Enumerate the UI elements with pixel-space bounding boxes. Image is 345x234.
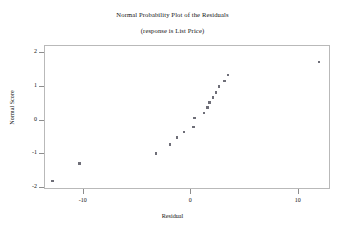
y-axis-tick-label: -2 <box>7 183 37 189</box>
data-point <box>212 96 214 98</box>
chart-subtitle: (response is List Price) <box>0 27 345 34</box>
x-axis-tick-label: 10 <box>278 197 318 203</box>
page-title: Normal Probability Plot of the Residuals <box>0 11 345 18</box>
data-point <box>218 85 220 87</box>
data-point <box>318 61 320 63</box>
y-axis-tick-mark <box>39 153 44 154</box>
data-point <box>78 162 80 164</box>
y-axis-tick-mark <box>39 120 44 121</box>
data-point <box>155 152 157 154</box>
y-axis-tick-label: 0 <box>7 116 37 122</box>
data-point <box>192 126 194 128</box>
x-axis-tick-label: 0 <box>170 197 210 203</box>
y-axis-tick-label: -1 <box>7 149 37 155</box>
y-axis-tick-mark <box>39 187 44 188</box>
data-point <box>183 131 185 133</box>
y-axis-tick-label: 1 <box>7 82 37 88</box>
y-axis-tick-mark <box>39 86 44 87</box>
data-point <box>215 91 217 93</box>
data-point <box>208 101 210 103</box>
y-axis-tick-label: 2 <box>7 48 37 54</box>
normal-probability-plot-figure: Normal Probability Plot of the Residuals… <box>0 0 345 234</box>
data-point <box>51 180 53 182</box>
data-point <box>193 117 195 119</box>
y-axis-tick-mark <box>39 52 44 53</box>
data-point <box>223 80 225 82</box>
data-point <box>169 143 171 145</box>
data-point <box>206 106 208 108</box>
plot-area <box>44 45 330 189</box>
data-point <box>176 136 178 138</box>
x-axis-label: Residual <box>0 212 345 219</box>
x-axis-tick-mark <box>83 189 84 194</box>
x-axis-tick-label: -10 <box>63 197 103 203</box>
data-point <box>203 112 205 114</box>
data-point <box>227 74 229 76</box>
x-axis-tick-mark <box>298 189 299 194</box>
x-axis-tick-mark <box>190 189 191 194</box>
